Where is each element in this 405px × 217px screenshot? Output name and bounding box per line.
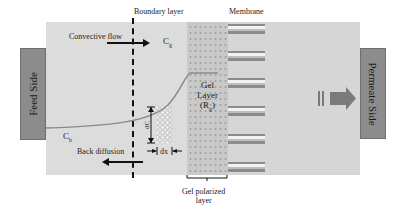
permeate-flow-arrow: [318, 87, 356, 110]
gel-polarized-layer-label: Gel polarized layer: [182, 187, 225, 205]
boundary-layer-label: Boundary layer: [134, 7, 184, 16]
dc-label: dC: [143, 121, 151, 129]
cb-label: Cb: [63, 131, 72, 143]
cg-label: Cg: [163, 36, 172, 48]
gel-polarized-bracket: [187, 175, 227, 181]
back-diffusion-arrow: [102, 158, 143, 166]
membrane-label: Membrane: [229, 7, 264, 16]
concentration-profile-curve: [46, 73, 218, 128]
back-diffusion-label: Back diffusion: [77, 147, 124, 156]
diagram-overlay: [0, 0, 405, 217]
dx-label: dx: [160, 147, 168, 156]
convective-flow-label: Convective flow: [69, 32, 122, 41]
